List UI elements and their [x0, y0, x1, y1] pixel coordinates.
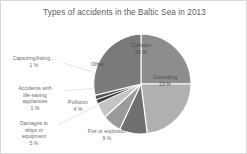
slice-label-fire-value: 9 % [79, 135, 135, 142]
slice-label-other: Other [91, 61, 117, 68]
slice-label-pollution-value: 4 % [61, 106, 95, 113]
slice-label-collision-value: 25 % [119, 49, 163, 56]
slice-label-lifesaving-value: 1 % [7, 105, 63, 112]
slice-label-damages-value: 5 % [11, 140, 57, 147]
slice-label-grounding: Grounding 23 % [141, 74, 189, 87]
slice-label-damages-line2: ships or [11, 127, 57, 134]
slice-label-collision: Collision 25 % [119, 42, 163, 55]
slice-label-damages-line3: equipment [11, 133, 57, 140]
slice-label-damages-to-ships: Damages to ships or equipment 5 % [11, 120, 57, 147]
slice-label-life-saving-appliances: Accidents with life-saving appliances 1 … [7, 85, 63, 112]
slice-label-pollution-name: Pollution [61, 99, 95, 106]
slice-label-lifesaving-line2: life-saving [7, 92, 63, 99]
slice-label-other-name: Other [91, 61, 117, 68]
slice-label-capsizing-listing: Capsizing/listing… 1 % [5, 55, 63, 68]
slice-label-pollution: Pollution 4 % [61, 99, 95, 112]
chart-container: Types of accidents in the Baltic Sea in … [0, 0, 247, 154]
slice-label-grounding-value: 23 % [141, 81, 189, 88]
slice-label-lifesaving-line3: appliances [7, 98, 63, 105]
pie-slice-grounding[interactable] [141, 84, 191, 134]
slice-label-capsizing-value: 1 % [5, 62, 63, 69]
slice-label-damages-line1: Damages to [11, 120, 57, 127]
slice-label-fire-or-explosion: Fire or explosion 9 % [79, 128, 135, 141]
chart-title: Types of accidents in the Baltic Sea in … [1, 8, 247, 17]
slice-label-lifesaving-line1: Accidents with [7, 85, 63, 92]
slice-label-fire-name: Fire or explosion [79, 128, 135, 135]
slice-label-capsizing-name: Capsizing/listing… [5, 55, 63, 62]
